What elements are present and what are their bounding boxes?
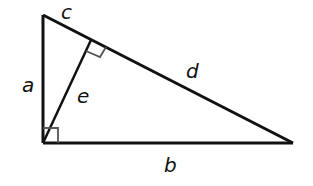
label-a: a [22,73,34,97]
label-e: e [77,84,89,108]
label-b: b [164,153,177,177]
right-angle-marker-foot [86,47,106,57]
hypotenuse [43,15,293,143]
label-d: d [186,59,199,83]
triangle-diagram: c a e d b [0,0,313,186]
label-c: c [61,0,72,24]
